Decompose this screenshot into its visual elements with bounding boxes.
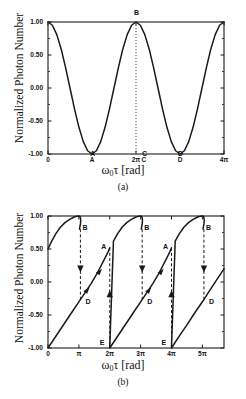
x-tick-label: 4π bbox=[162, 350, 182, 357]
x-tick-label: C bbox=[134, 156, 154, 163]
x-tick-label: D bbox=[170, 156, 190, 163]
plot-area-b: Normalized Photon Number ω0τ [rad] (b) -… bbox=[0, 200, 246, 399]
x-tick-label: A bbox=[82, 156, 102, 163]
x-axis-label-a: ω0τ [rad] bbox=[0, 163, 246, 178]
y-tick-label: 0.00 bbox=[17, 84, 43, 91]
panel-label-b: (b) bbox=[0, 377, 246, 387]
x-tick-label: 0 bbox=[38, 156, 58, 163]
panel-label-a: (a) bbox=[0, 182, 246, 192]
point-label-c: C bbox=[142, 150, 147, 157]
x-axis-label-b: ω0τ [rad] bbox=[0, 358, 246, 373]
y-tick-label: 1.00 bbox=[17, 18, 43, 25]
point-label-d: D bbox=[209, 298, 214, 305]
x-tick-label: 4π bbox=[214, 156, 234, 163]
arrow-down-icon bbox=[139, 266, 145, 273]
x-tick-label: 0 bbox=[38, 350, 58, 357]
data-curve bbox=[110, 248, 172, 348]
y-tick-label: -0.50 bbox=[17, 311, 43, 318]
data-curve bbox=[110, 216, 143, 347]
y-tick-label: 0.50 bbox=[17, 245, 43, 252]
point-label-e: E bbox=[162, 339, 167, 346]
plot-area-a: Normalized Photon Number ω0τ [rad] (a) -… bbox=[0, 0, 246, 200]
point-label-b: B bbox=[144, 224, 149, 231]
arrow-down-icon bbox=[77, 266, 83, 273]
point-label-b: B bbox=[206, 224, 211, 231]
y-tick-label: 0.50 bbox=[17, 51, 43, 58]
plot-frame bbox=[48, 216, 224, 348]
y-tick-label: 0.00 bbox=[17, 278, 43, 285]
x-tick-label: π bbox=[69, 350, 89, 357]
point-label-d: D bbox=[86, 298, 91, 305]
point-label-b: B bbox=[82, 224, 87, 231]
point-label-a: A bbox=[101, 243, 106, 250]
point-label-a: A bbox=[90, 150, 95, 157]
x-tick-label: 5π bbox=[192, 350, 212, 357]
y-tick-label: 1.00 bbox=[17, 212, 43, 219]
y-tick-label: -0.50 bbox=[17, 117, 43, 124]
data-curve bbox=[48, 216, 81, 249]
data-curve bbox=[48, 248, 110, 348]
x-tick-label: 3π bbox=[131, 350, 151, 357]
arrow-down-icon bbox=[201, 266, 207, 273]
point-label-a: A bbox=[163, 243, 168, 250]
figure-b: Normalized Photon Number ω0τ [rad] (b) -… bbox=[0, 200, 246, 399]
data-curve bbox=[172, 216, 205, 347]
point-label-d: D bbox=[147, 298, 152, 305]
point-label-d: D bbox=[178, 150, 183, 157]
figure-a: Normalized Photon Number ω0τ [rad] (a) -… bbox=[0, 0, 246, 200]
data-curve bbox=[172, 269, 224, 348]
point-label-b: B bbox=[134, 9, 139, 16]
point-label-e: E bbox=[100, 339, 105, 346]
x-tick-label: 2π bbox=[100, 350, 120, 357]
